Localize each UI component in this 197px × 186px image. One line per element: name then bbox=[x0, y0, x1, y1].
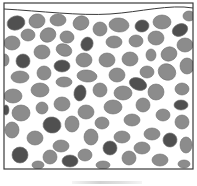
light-particle bbox=[36, 102, 48, 114]
light-particle bbox=[124, 114, 140, 126]
light-particle bbox=[50, 14, 66, 26]
light-particle bbox=[114, 131, 130, 143]
dark-particle bbox=[5, 14, 26, 32]
light-particle bbox=[108, 17, 129, 33]
light-particle bbox=[95, 117, 109, 129]
light-particle bbox=[114, 86, 132, 100]
light-particle bbox=[134, 142, 150, 154]
light-particle bbox=[144, 128, 160, 140]
light-particle bbox=[4, 89, 22, 103]
dark-particle bbox=[16, 54, 30, 68]
light-particle bbox=[56, 77, 72, 87]
dark-particle bbox=[73, 84, 88, 102]
light-particle bbox=[148, 84, 164, 100]
light-particle bbox=[34, 45, 50, 59]
light-particle bbox=[1, 54, 9, 66]
light-particle bbox=[180, 137, 192, 153]
light-particle bbox=[175, 83, 189, 95]
dark-particle bbox=[42, 116, 63, 135]
dark-particle bbox=[174, 100, 188, 110]
light-particle bbox=[4, 36, 20, 50]
dark-particle bbox=[12, 147, 28, 163]
dark-particle bbox=[54, 60, 70, 72]
light-particle bbox=[159, 45, 179, 64]
light-particle bbox=[152, 154, 168, 166]
light-particle bbox=[122, 52, 138, 66]
light-particle bbox=[54, 97, 70, 111]
light-particle bbox=[27, 131, 43, 145]
light-particle bbox=[38, 25, 58, 44]
light-particle bbox=[71, 14, 91, 33]
light-particle bbox=[93, 83, 107, 97]
light-particle bbox=[54, 42, 73, 59]
light-particle bbox=[104, 100, 122, 114]
light-particle bbox=[155, 61, 179, 84]
light-particle bbox=[65, 116, 79, 132]
dark-particle bbox=[62, 155, 78, 167]
particle-container-diagram bbox=[0, 0, 197, 186]
light-particle bbox=[77, 69, 98, 83]
light-particle bbox=[59, 30, 75, 44]
dark-particle bbox=[134, 19, 150, 33]
light-particle bbox=[78, 149, 92, 161]
light-particle bbox=[96, 161, 110, 169]
light-particle bbox=[177, 38, 193, 52]
dark-particle bbox=[170, 21, 190, 39]
dark-particle bbox=[161, 131, 178, 148]
free-surface-line bbox=[4, 7, 193, 15]
dark-particle bbox=[79, 35, 95, 52]
light-particle bbox=[148, 31, 164, 45]
light-particle bbox=[106, 36, 122, 48]
light-particle bbox=[99, 53, 115, 67]
light-particle bbox=[153, 15, 171, 29]
light-particle bbox=[21, 29, 35, 41]
light-particle bbox=[122, 151, 136, 165]
light-particle bbox=[175, 115, 189, 129]
light-particle bbox=[32, 161, 44, 169]
light-particle bbox=[53, 140, 69, 152]
diagram-canvas bbox=[0, 0, 197, 186]
light-particle bbox=[156, 109, 170, 121]
light-particle bbox=[43, 150, 57, 164]
light-particle bbox=[12, 105, 30, 121]
light-particle bbox=[76, 53, 92, 67]
light-particle bbox=[146, 49, 156, 61]
dark-particle bbox=[103, 141, 117, 155]
light-particle bbox=[93, 22, 107, 36]
light-particle bbox=[178, 160, 190, 168]
light-particle bbox=[31, 83, 49, 97]
light-particle bbox=[84, 129, 98, 145]
figure-caption bbox=[72, 181, 142, 184]
light-particle bbox=[78, 105, 94, 119]
light-particle bbox=[28, 13, 46, 30]
particle-group bbox=[1, 11, 195, 169]
light-particle bbox=[180, 58, 194, 74]
light-particle bbox=[140, 66, 154, 78]
light-particle bbox=[136, 98, 150, 112]
light-particle bbox=[5, 122, 19, 138]
light-particle bbox=[109, 68, 125, 82]
light-particle bbox=[11, 71, 29, 83]
light-particle bbox=[129, 35, 143, 47]
light-particle bbox=[37, 66, 51, 80]
